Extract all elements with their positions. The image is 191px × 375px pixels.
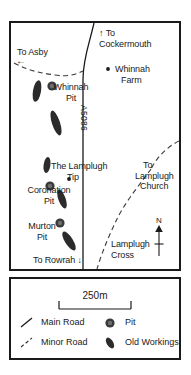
old-workings-mark xyxy=(48,109,64,136)
north-letter: N xyxy=(148,216,170,225)
map-figure: To Asby ← ↑ ToCockermouth WhinnahFarm Wh… xyxy=(0,0,191,375)
place-dot-whinnah-farm xyxy=(106,67,110,71)
legend-label-pit: Pit xyxy=(125,317,136,327)
label-murton-pit: MurtonPit xyxy=(17,221,67,242)
old-workings-icon xyxy=(103,337,119,349)
label-lamplugh-church: ToLamplughChurch xyxy=(135,160,181,192)
label-whinnah-pit: WhinnahPit xyxy=(41,82,101,103)
label-to-rowrah: To Rowrah ↓ xyxy=(33,255,82,266)
label-to-cockermouth: ↑ ToCockermouth xyxy=(99,28,175,49)
legend-label-main-road: Main Road xyxy=(41,317,85,327)
label-coronation-pit: CoronationPit xyxy=(13,185,85,206)
arrow-to-rowrah: ↓ xyxy=(78,255,82,265)
north-arrow: N xyxy=(148,216,170,261)
arrow-to-cockermouth: ↑ xyxy=(99,28,103,38)
main-road-icon xyxy=(19,317,35,329)
label-lamplugh-tip: The LamplughTip xyxy=(51,161,137,182)
pit-icon xyxy=(103,317,119,329)
north-arrow-glyph xyxy=(151,225,167,257)
scale-bar xyxy=(58,301,132,310)
label-road-a5086: A5086 xyxy=(79,105,89,131)
map-panel: To Asby ← ↑ ToCockermouth WhinnahFarm Wh… xyxy=(9,21,181,271)
main-road-a5086 xyxy=(83,23,94,269)
legend-label-old-workings: Old Workings xyxy=(125,337,179,347)
arrow-to-asby: ← xyxy=(16,56,26,67)
scale-bar-label: 250m xyxy=(82,290,107,301)
minor-road-icon xyxy=(19,337,35,349)
legend-panel: 250m Main Road Minor Road xyxy=(9,277,181,360)
label-whinnah-farm: WhinnahFarm xyxy=(115,64,175,85)
legend-label-minor-road: Minor Road xyxy=(41,337,88,347)
